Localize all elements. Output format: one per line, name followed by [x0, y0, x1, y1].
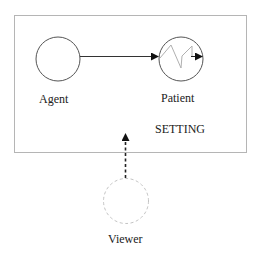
- diagram-canvas: [0, 0, 258, 259]
- setting-label: SETTING: [155, 122, 205, 136]
- setting-box: [15, 16, 247, 153]
- agent-node: [36, 37, 80, 81]
- patient-squiggle-icon: [160, 45, 192, 68]
- patient-node: [159, 37, 203, 81]
- agent-label: Agent: [39, 92, 68, 106]
- viewer-node: [104, 179, 149, 224]
- patient-label: Patient: [161, 91, 194, 105]
- viewer-label: Viewer: [108, 232, 143, 246]
